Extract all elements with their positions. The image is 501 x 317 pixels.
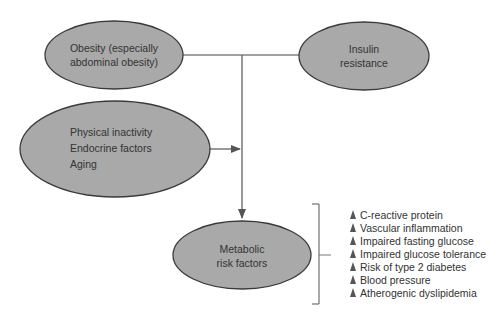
svg-text:C-reactive protein: C-reactive protein [360,209,443,221]
increase-triangle-icon [350,249,356,258]
node-obesity-line-2: abdominal obesity) [70,56,158,68]
diagram-canvas: Obesity (especially abdominal obesity) I… [0,0,501,317]
node-other-line-2: Endocrine factors [70,142,152,154]
node-insulin-line-1: Insulin [349,43,380,55]
node-metabolic-line-1: Metabolic [220,243,265,255]
risk-item: Risk of type 2 diabetes [350,261,466,273]
node-other-factors: Physical inactivity Endocrine factors Ag… [20,101,210,197]
risk-item: C-reactive protein [350,209,443,221]
node-metabolic-risk-factors: Metabolic risk factors [173,221,311,289]
increase-triangle-icon [350,223,356,232]
node-obesity: Obesity (especially abdominal obesity) [45,21,183,89]
risk-item: Vascular inflammation [350,222,463,234]
node-insulin-resistance: Insulin resistance [299,22,429,90]
increase-triangle-icon [350,288,356,297]
svg-text:Blood pressure: Blood pressure [360,274,431,286]
increase-triangle-icon [350,262,356,271]
svg-text:Atherogenic dyslipidemia: Atherogenic dyslipidemia [360,287,477,299]
increase-triangle-icon [350,236,356,245]
risk-item: Blood pressure [350,274,431,286]
node-other-line-1: Physical inactivity [70,126,153,138]
risk-item: Impaired fasting glucose [350,235,474,247]
increase-triangle-icon [350,210,356,219]
risk-item: Atherogenic dyslipidemia [350,287,477,299]
node-obesity-line-1: Obesity (especially [70,42,159,54]
risk-factor-list: C-reactive protein Vascular inflammation… [350,209,486,299]
node-insulin-line-2: resistance [340,57,388,69]
increase-triangle-icon [350,275,356,284]
svg-text:Impaired fasting glucose: Impaired fasting glucose [360,235,474,247]
risk-item: Impaired glucose tolerance [350,248,486,260]
node-metabolic-line-2: risk factors [217,257,268,269]
node-other-line-3: Aging [70,158,97,170]
svg-text:Vascular inflammation: Vascular inflammation [360,222,463,234]
svg-text:Impaired glucose tolerance: Impaired glucose tolerance [360,248,486,260]
svg-text:Risk of type 2 diabetes: Risk of type 2 diabetes [360,261,466,273]
risk-bracket [312,204,331,304]
